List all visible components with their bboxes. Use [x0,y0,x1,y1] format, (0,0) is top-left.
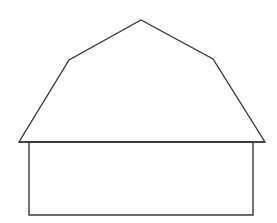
barn-outline-drawing [0,0,277,223]
wall-fill [29,142,253,215]
drawing-canvas [0,0,277,223]
